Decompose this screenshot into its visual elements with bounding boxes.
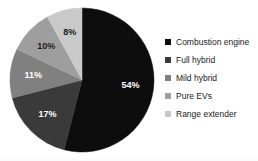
legend-item[interactable]: Full hybrid (165, 51, 258, 69)
legend-swatch-icon (165, 57, 171, 63)
legend-item-label: Combustion engine (176, 38, 249, 47)
legend-item-label: Pure EVs (176, 92, 212, 101)
pie-slice-label: 17% (38, 109, 56, 119)
legend-swatch-icon (165, 111, 171, 117)
legend-item[interactable]: Pure EVs (165, 87, 258, 105)
figure-bottom-edge (0, 159, 258, 161)
legend-item[interactable]: Combustion engine (165, 33, 258, 51)
pie-slice-label: 54% (122, 80, 140, 90)
legend-item-label: Mild hybrid (176, 74, 217, 83)
legend-item[interactable]: Mild hybrid (165, 69, 258, 87)
pie-plot-area: 54%17%11%10%8% (0, 0, 165, 161)
legend-swatch-icon (165, 39, 171, 45)
pie-svg: 54%17%11%10%8% (0, 0, 165, 161)
chart-legend: Combustion engineFull hybridMild hybridP… (165, 33, 258, 123)
legend-item-label: Range extender (176, 110, 237, 119)
legend-swatch-icon (165, 75, 171, 81)
pie-slice-label: 8% (63, 27, 76, 37)
legend-swatch-icon (165, 93, 171, 99)
legend-item-label: Full hybrid (176, 56, 215, 65)
pie-chart-figure: 54%17%11%10%8% Combustion engineFull hyb… (0, 0, 258, 161)
legend-item[interactable]: Range extender (165, 105, 258, 123)
pie-slice-label: 10% (37, 41, 55, 51)
pie-slice-label: 11% (25, 70, 43, 80)
